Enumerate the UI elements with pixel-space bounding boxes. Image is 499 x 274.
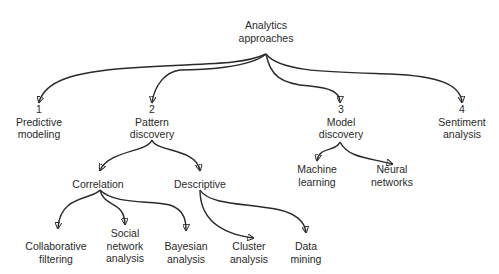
node-label: analysis [438,128,485,141]
node-pattern-discovery: 2 Pattern discovery [130,103,174,141]
edge-desc-dm [200,190,306,232]
node-machine-learning: Machine learning [297,163,337,188]
node-label: Pattern [130,116,174,129]
node-label: networks [371,176,413,189]
node-label: learning [297,176,337,189]
edge-n2-corr [100,140,152,170]
node-label: Correlation [72,178,123,191]
node-label: discovery [130,128,174,141]
edge-corr-cf [58,190,100,228]
node-number: 3 [319,103,363,116]
node-label: discovery [319,128,363,141]
node-label: Predictive [16,116,62,129]
node-label: mining [291,253,322,266]
node-social-network-analysis: Social network analysis [106,227,144,265]
node-descriptive: Descriptive [174,178,226,191]
node-bayesian-analysis: Bayesian analysis [164,240,207,265]
node-label: Bayesian [164,240,207,253]
node-number: 1 [16,103,62,116]
node-label: Sentiment [438,116,485,129]
node-label: Neural [371,163,413,176]
node-label: analysis [106,252,144,265]
node-label: network [106,240,144,253]
node-correlation: Correlation [72,178,123,191]
node-root: Analytics approaches [239,19,294,44]
node-sentiment-analysis: 4 Sentiment analysis [438,103,485,141]
node-label: approaches [239,32,294,45]
edge-root-n4 [266,54,462,102]
node-label: analysis [164,253,207,266]
node-label: Data [291,240,322,253]
node-number: 2 [130,103,174,116]
node-label: modeling [16,128,62,141]
node-label: filtering [25,253,86,266]
edge-root-n3 [266,54,340,102]
node-label: Descriptive [174,178,226,191]
edge-root-n2 [152,54,266,102]
node-label: Social [106,227,144,240]
node-cluster-analysis: Cluster analysis [230,240,268,265]
node-label: Collaborative [25,240,86,253]
node-data-mining: Data mining [291,240,322,265]
edge-corr-ba [100,190,186,230]
edge-n3-ml [317,142,340,160]
node-label: analysis [230,253,268,266]
edge-corr-sna [100,190,125,224]
node-label: Analytics [239,19,294,32]
node-label: Machine [297,163,337,176]
node-number: 4 [438,103,485,116]
edge-n2-desc [152,140,200,170]
node-collaborative-filtering: Collaborative filtering [25,240,86,265]
node-label: Cluster [230,240,268,253]
node-neural-networks: Neural networks [371,163,413,188]
edge-root-n1 [39,54,266,102]
edge-n3-nn [340,142,392,164]
node-predictive-modeling: 1 Predictive modeling [16,103,62,141]
node-model-discovery: 3 Model discovery [319,103,363,141]
node-label: Model [319,116,363,129]
